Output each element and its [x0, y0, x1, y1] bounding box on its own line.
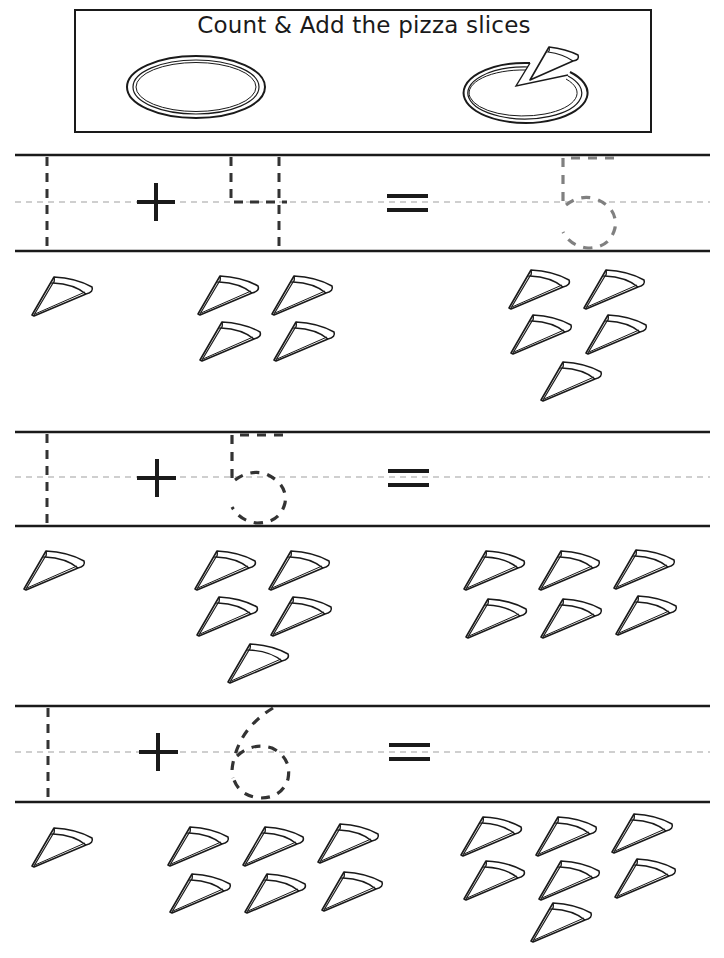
problem-2-trace-digit-5[interactable] [232, 435, 285, 523]
worksheet-artwork [0, 0, 724, 958]
pizza-with-slice-removed-icon [464, 47, 588, 123]
problem-1-addend2-slices [198, 276, 334, 361]
problem-3-trace-digit-6[interactable] [232, 708, 289, 798]
problem-2-answer-space[interactable] [450, 434, 705, 524]
problem-1-equals-sign [387, 196, 428, 210]
problem-1-sum-slices [509, 270, 646, 401]
problem-2-equals-sign [388, 471, 429, 485]
problem-3-plus-sign [139, 733, 178, 771]
problem-2-plus-sign [137, 459, 176, 497]
problem-2-addend2-slices [195, 551, 331, 683]
problem-3-answer-space[interactable] [450, 708, 705, 800]
problem-2-sum-slices [464, 550, 676, 638]
problem-3-addend1-slices [32, 828, 92, 867]
problem-3-sum-slices [461, 814, 675, 942]
whole-pizza-icon [127, 56, 265, 118]
worksheet: Count & Add the pizza slices [0, 0, 724, 958]
problem-1-trace-digit-5[interactable] [563, 158, 615, 248]
problem-1-addend1-slices [32, 277, 92, 316]
problem-2-addend1-slices [24, 551, 84, 590]
problem-1-trace-digit-4[interactable] [231, 157, 287, 249]
problem-1-plus-sign [137, 183, 175, 221]
problem-3-addend2-slices [168, 824, 382, 913]
